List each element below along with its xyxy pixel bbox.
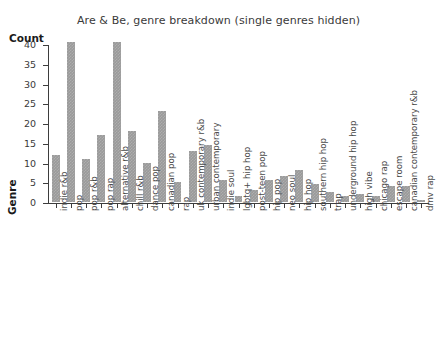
x-axis-category-label: chicago rap <box>379 161 389 211</box>
x-axis-tick-mark <box>193 204 194 208</box>
y-axis-tick-mark <box>43 124 48 125</box>
y-axis-tick-mark <box>43 183 48 184</box>
x-axis-category-label: dance pop <box>150 166 160 211</box>
y-axis-tick: 5 <box>43 183 48 184</box>
x-axis-category-label: canadian contemporary r&b <box>409 90 419 211</box>
x-axis-category-label: pop rap <box>105 178 115 211</box>
x-axis-tick-mark <box>117 204 118 208</box>
y-axis-tick-mark <box>43 104 48 105</box>
y-axis-tick: 15 <box>43 144 48 145</box>
bar-chart: Are & Be, genre breakdown (single genres… <box>0 0 437 355</box>
y-axis-tick-mark <box>43 164 48 165</box>
y-axis-tick-mark <box>43 203 48 204</box>
x-axis-tick-mark <box>223 204 224 208</box>
y-axis-tick: 20 <box>43 124 48 125</box>
x-axis-category-label: hip hop <box>303 179 313 211</box>
x-axis-category-label: southern hip hop <box>318 138 328 211</box>
x-axis-category-label: indie soul <box>226 170 236 211</box>
y-axis-tick: 10 <box>43 164 48 165</box>
y-axis-tick-label: 0 <box>30 197 36 208</box>
x-axis-category-label: dmv rap <box>425 175 435 211</box>
x-axis-category-label: indie r&b <box>59 172 69 211</box>
x-axis-category-label: urban contemporary <box>211 123 221 211</box>
y-axis-tick: 25 <box>43 104 48 105</box>
x-axis-category-label: underground hip hop <box>348 121 358 211</box>
x-axis-category-label: post-teen pop <box>257 151 267 211</box>
x-axis-tick-mark <box>406 204 407 208</box>
x-axis-tick-mark <box>360 204 361 208</box>
x-axis-category-label: high vibe <box>364 171 374 211</box>
x-axis-category-label: pop <box>74 195 84 211</box>
x-axis-tick-mark <box>269 204 270 208</box>
y-axis-tick-label: 10 <box>24 158 36 169</box>
x-axis-tick-mark <box>391 204 392 208</box>
x-axis-tick-mark <box>315 204 316 208</box>
x-axis-tick-mark <box>132 204 133 208</box>
x-axis-tick-mark <box>376 204 377 208</box>
x-axis-category-label: pop r&b <box>89 176 99 211</box>
x-axis-tick-mark <box>421 204 422 208</box>
y-axis-tick-label: 20 <box>24 118 36 129</box>
x-axis-tick-mark <box>147 204 148 208</box>
x-axis-label: Genre <box>6 179 18 215</box>
x-axis-tick-mark <box>178 204 179 208</box>
x-axis-tick-mark <box>345 204 346 208</box>
x-axis-tick-mark <box>86 204 87 208</box>
x-axis-category-label: uk contemporary r&b <box>196 119 206 211</box>
y-axis-tick-label: 15 <box>24 138 36 149</box>
x-axis-category-label: escape room <box>394 156 404 211</box>
y-axis-line <box>48 45 49 204</box>
x-axis-tick-mark <box>208 204 209 208</box>
x-axis-tick-mark <box>284 204 285 208</box>
y-axis-tick-mark <box>43 45 48 46</box>
x-axis-tick-mark <box>254 204 255 208</box>
y-axis-tick: 30 <box>43 85 48 86</box>
chart-title: Are & Be, genre breakdown (single genres… <box>0 14 437 27</box>
x-axis-tick-mark <box>101 204 102 208</box>
x-axis-category-label: rap <box>181 197 191 211</box>
x-axis-category-label: neo soul <box>287 175 297 211</box>
x-axis-category-label: hip pop <box>272 179 282 211</box>
y-axis-tick-label: 5 <box>30 177 36 188</box>
x-axis-category-label: trap <box>333 193 343 211</box>
y-axis-tick-mark <box>43 85 48 86</box>
y-axis-tick-label: 30 <box>24 79 36 90</box>
y-axis-tick-mark <box>43 65 48 66</box>
y-axis-tick-label: 35 <box>24 59 36 70</box>
x-axis-category-label: chill r&b <box>135 175 145 211</box>
y-axis-tick: 0 <box>43 203 48 204</box>
x-axis-tick-mark <box>239 204 240 208</box>
x-axis-tick-mark <box>56 204 57 208</box>
x-axis-tick-mark <box>299 204 300 208</box>
y-axis-tick-label: 25 <box>24 98 36 109</box>
x-axis-tick-mark <box>71 204 72 208</box>
y-axis-tick-label: 40 <box>24 39 36 50</box>
y-axis-tick-mark <box>43 144 48 145</box>
x-axis-category-label: canadian pop <box>166 153 176 211</box>
y-axis-tick: 40 <box>43 45 48 46</box>
x-axis-tick-mark <box>330 204 331 208</box>
x-axis-category-label: alternative r&b <box>120 146 130 211</box>
x-axis-tick-mark <box>162 204 163 208</box>
y-axis-tick: 35 <box>43 65 48 66</box>
x-axis-category-label: lgbtq+ hip hop <box>242 147 252 211</box>
